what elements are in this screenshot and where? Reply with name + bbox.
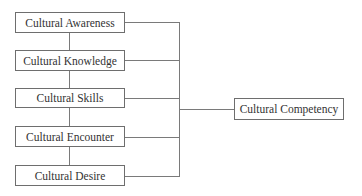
box-cultural-competency: Cultural Competency bbox=[234, 98, 344, 120]
connector-knowledge bbox=[125, 60, 180, 61]
link-knowledge-skills bbox=[69, 71, 70, 88]
label-cultural-knowledge: Cultural Knowledge bbox=[23, 55, 117, 67]
link-encounter-desire bbox=[69, 147, 70, 165]
label-cultural-awareness: Cultural Awareness bbox=[25, 17, 114, 29]
connector-encounter bbox=[125, 137, 180, 138]
connector-competency bbox=[179, 109, 234, 110]
box-cultural-knowledge: Cultural Knowledge bbox=[15, 50, 125, 71]
box-cultural-awareness: Cultural Awareness bbox=[15, 12, 125, 33]
connector-skills bbox=[125, 98, 180, 99]
label-cultural-skills: Cultural Skills bbox=[37, 92, 104, 104]
label-cultural-competency: Cultural Competency bbox=[240, 103, 339, 115]
label-cultural-desire: Cultural Desire bbox=[35, 170, 106, 182]
connector-desire bbox=[125, 176, 180, 177]
label-cultural-encounter: Cultural Encounter bbox=[26, 131, 114, 143]
trunk-line bbox=[179, 22, 180, 177]
box-cultural-encounter: Cultural Encounter bbox=[15, 126, 125, 147]
link-awareness-knowledge bbox=[69, 33, 70, 50]
box-cultural-desire: Cultural Desire bbox=[15, 165, 125, 186]
link-skills-encounter bbox=[69, 108, 70, 126]
box-cultural-skills: Cultural Skills bbox=[15, 88, 125, 108]
connector-awareness bbox=[125, 22, 180, 23]
